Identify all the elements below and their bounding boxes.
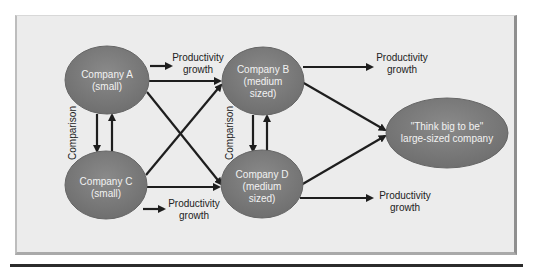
node-label: Company C	[80, 176, 133, 187]
node-label: Company D	[236, 169, 289, 180]
outcome-text: growth	[179, 210, 209, 221]
outcome-text: growth	[390, 202, 420, 213]
outcome-text: Productivity	[172, 52, 224, 63]
outcome-text: growth	[387, 64, 417, 75]
outcome-text: Productivity	[376, 52, 428, 63]
node-label: sized)	[250, 88, 277, 99]
node-label: large-sized company	[401, 133, 493, 144]
node-company-b: Company B (medium sized)	[222, 47, 304, 115]
diagram-canvas: Company A (small) Company B (medium size…	[0, 0, 534, 274]
comparison-label-ac: Comparison	[67, 106, 78, 160]
node-company-a: Company A (small)	[65, 46, 149, 114]
growth-label-a: Productivity growth	[172, 52, 224, 75]
arrow-b-to-large	[302, 82, 385, 130]
node-label: Company B	[237, 64, 290, 75]
node-label: "Think big to be"	[411, 121, 484, 132]
node-label: (small)	[91, 188, 121, 199]
growth-label-c: Productivity growth	[168, 198, 220, 221]
arrow-a-to-d	[147, 92, 221, 184]
comparison-label-bd: Comparison	[224, 106, 235, 160]
growth-label-b: Productivity growth	[376, 52, 428, 75]
node-label: (small)	[92, 81, 122, 92]
node-label: (medium	[243, 181, 282, 192]
growth-label-d: Productivity growth	[379, 190, 431, 213]
arrow-c-to-b	[146, 85, 221, 175]
arrow-d-to-large	[301, 136, 385, 185]
node-company-c: Company C (small)	[65, 151, 147, 219]
outcome-text: Productivity	[379, 190, 431, 201]
node-large-company: "Think big to be" large-sized company	[386, 98, 508, 168]
outcome-text: growth	[183, 64, 213, 75]
node-label: Company A	[81, 69, 133, 80]
node-label: sized)	[249, 193, 276, 204]
node-shape	[65, 46, 149, 114]
node-label: (medium	[244, 76, 283, 87]
outcome-text: Productivity	[168, 198, 220, 209]
